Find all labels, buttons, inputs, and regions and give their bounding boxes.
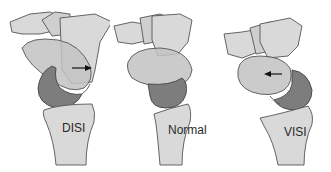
visi-diagram: VISI xyxy=(220,0,331,172)
visi-label: VISI xyxy=(284,125,307,139)
scaphoid-bone xyxy=(238,56,291,95)
normal-label: Normal xyxy=(168,123,207,137)
capitate-bone xyxy=(260,18,302,58)
disi-diagram: DISI xyxy=(0,0,110,172)
panel-disi: DISI xyxy=(0,0,110,172)
normal-diagram: Normal xyxy=(110,0,220,172)
panel-normal: Normal xyxy=(110,0,220,172)
disi-label: DISI xyxy=(62,121,85,135)
panel-visi: VISI xyxy=(220,0,331,172)
